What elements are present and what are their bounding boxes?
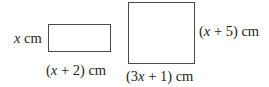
large-rectangle-width-label: (3x + 1) cm	[126, 69, 193, 84]
small-rectangle-height-label: x cm	[14, 31, 42, 46]
small-rectangle-width-label: (x + 2) cm	[46, 63, 106, 78]
large-rectangle	[128, 2, 195, 64]
large-rectangle-height-label: (x + 5) cm	[199, 24, 259, 39]
small-rectangle	[48, 24, 111, 52]
